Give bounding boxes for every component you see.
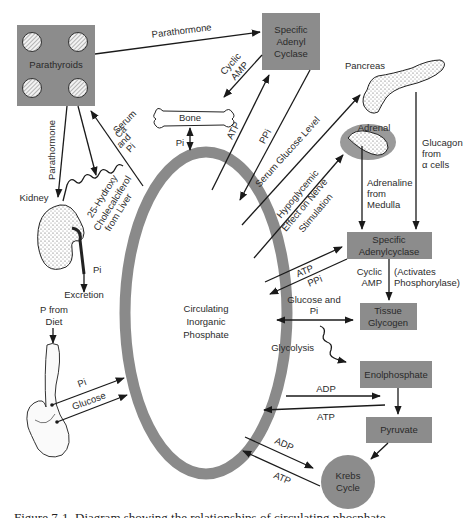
circulating-phosphate-ring: Circulating Inorganic Phosphate	[125, 152, 287, 474]
bone-pi-edge: Pi	[176, 128, 190, 150]
figure-caption: Figure 7-1. Diagram showing the relation…	[14, 509, 474, 518]
adrenaline-label-3: Medulla	[367, 199, 401, 210]
glucagon-label-1: Glucagon	[422, 137, 463, 148]
parathormone-kidney-edge: Parathormone	[46, 106, 96, 197]
adp-krebs-label: ADP	[273, 435, 295, 453]
krebs-label-2: Cycle	[336, 482, 360, 493]
pyruvate-label: Pyruvate	[380, 424, 418, 435]
adrenal-node: Adrenal	[340, 122, 396, 160]
bone-label: Bone	[179, 112, 201, 123]
kidney-label: Kidney	[19, 192, 48, 203]
pancreas-node: Pancreas	[345, 60, 445, 113]
adenyl-cyclase-label-3: Cyclase	[274, 48, 308, 59]
gut-glucose-label: Glucose	[71, 390, 108, 412]
kidney-pi-label: Pi	[93, 264, 101, 275]
pancreas-label: Pancreas	[345, 60, 385, 71]
adp-enol-label: ADP	[316, 383, 336, 394]
glycolysis-label: Glycolysis	[271, 342, 314, 353]
bone-pi-label: Pi	[176, 137, 184, 148]
center-label-line2: Inorganic	[186, 316, 225, 327]
adenylcyclase-label-1: Specific	[372, 234, 406, 245]
ppi-adenylcyclase-label: PPi	[306, 273, 324, 289]
atp-enol-label: ATP	[317, 411, 335, 422]
bone-node: Bone	[154, 108, 234, 128]
tissue-glycogen-label-1: Tissue	[374, 305, 402, 316]
adenylcyclase-label-2: Adenylcyclase	[359, 246, 420, 257]
tissue-glycogen-label-2: Glycogen	[368, 317, 408, 328]
parathyroids-node: Parathyroids	[17, 25, 95, 106]
adrenal-label: Adrenal	[358, 122, 391, 133]
pyruvate-to-krebs-arrow	[371, 443, 388, 459]
parathormone-edge-top: Parathormone	[95, 21, 260, 54]
adenyl-cyclase-label-2: Adenyl	[276, 36, 305, 47]
krebs-label-1: Krebs	[336, 470, 361, 481]
gut-absorption-edges: Pi Glucose	[50, 376, 127, 424]
krebs-cycle-node: Krebs Cycle	[321, 455, 375, 509]
cyclic-amp-bone-edge: Cyclic AMP	[218, 50, 262, 97]
cyclic-amp-label-1: Cyclic	[357, 266, 383, 277]
center-label-line1: Circulating	[184, 303, 229, 314]
glucose-and-pi-label-2: Pi	[310, 305, 318, 316]
adrenaline-label-2: from	[367, 188, 386, 199]
glucagon-label-3: α cells	[422, 159, 449, 170]
pyruvate-node: Pyruvate	[366, 417, 432, 443]
specific-adenyl-cyclase-node: Specific Adenyl Cyclase	[262, 13, 320, 70]
glucagon-edge: Glucagon from α cells	[416, 92, 463, 229]
glucagon-label-2: from	[422, 148, 441, 159]
parathormone-top-label: Parathormone	[151, 21, 212, 39]
p-from-diet-label-2: Diet	[46, 316, 63, 327]
gut-pi-label: Pi	[76, 376, 88, 389]
glucose-and-pi-label-1: Glucose and	[287, 294, 340, 305]
center-label-line3: Phosphate	[183, 329, 228, 340]
activates-label-2: Phosphorylase)	[394, 277, 460, 288]
cyclic-amp-edge: Cyclic AMP (Activates Phosphorylase)	[357, 259, 460, 300]
phosphate-metabolism-diagram: Circulating Inorganic Phosphate Parathyr…	[0, 0, 475, 518]
cyclic-amp-label-2: AMP	[361, 277, 382, 288]
p-from-diet-label-1: P from	[40, 304, 68, 315]
activates-label-1: (Activates	[394, 266, 436, 277]
excretion-label: Excretion	[64, 289, 104, 300]
kidney-node: Kidney	[19, 192, 84, 274]
parathyroids-label: Parathyroids	[29, 59, 83, 70]
specific-adenylcyclase-node: Specific Adenylcyclase	[347, 232, 432, 259]
adrenaline-label-1: Adrenaline	[367, 177, 412, 188]
enolphosphate-node: Enolphosphate	[360, 361, 432, 388]
adenyl-cyclase-label-1: Specific	[274, 24, 308, 35]
tissue-glycogen-node: Tissue Glycogen	[360, 303, 417, 330]
enolphosphate-label: Enolphosphate	[364, 369, 427, 380]
parathormone-kidney-label: Parathormone	[46, 120, 57, 180]
gut-node: P from Diet	[27, 304, 69, 457]
